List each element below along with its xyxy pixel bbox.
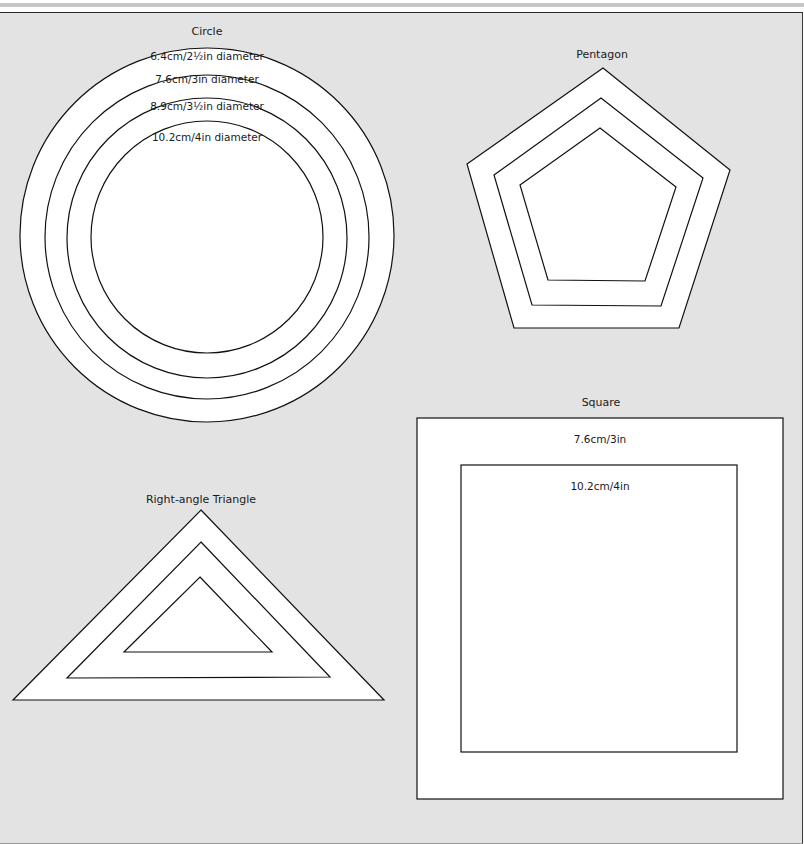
circle-ring-label: 7.6cm/3in diameter bbox=[155, 73, 259, 85]
circle-ring-label: 10.2cm/4in diameter bbox=[152, 131, 263, 143]
square-title: Square bbox=[582, 396, 621, 409]
circle-ring-10-2cm bbox=[91, 121, 323, 353]
circle-title: Circle bbox=[192, 25, 223, 38]
triangle-template: Right-angle Triangle bbox=[13, 493, 384, 700]
pentagon-template: Pentagon bbox=[467, 48, 730, 328]
shape-templates-diagram: Circle 6.4cm/2½in diameter 7.6cm/3in dia… bbox=[0, 0, 804, 844]
square-inner bbox=[461, 465, 737, 752]
circle-template: Circle 6.4cm/2½in diameter 7.6cm/3in dia… bbox=[20, 25, 394, 422]
square-inner-label: 10.2cm/4in bbox=[570, 480, 629, 492]
square-outer-label: 7.6cm/3in bbox=[574, 433, 627, 445]
triangle-title: Right-angle Triangle bbox=[146, 493, 256, 506]
square-template: Square 7.6cm/3in 10.2cm/4in bbox=[417, 396, 783, 799]
circle-ring-label: 8.9cm/3½in diameter bbox=[150, 100, 264, 112]
circle-ring-label: 6.4cm/2½in diameter bbox=[150, 50, 264, 62]
pentagon-title: Pentagon bbox=[576, 48, 628, 61]
